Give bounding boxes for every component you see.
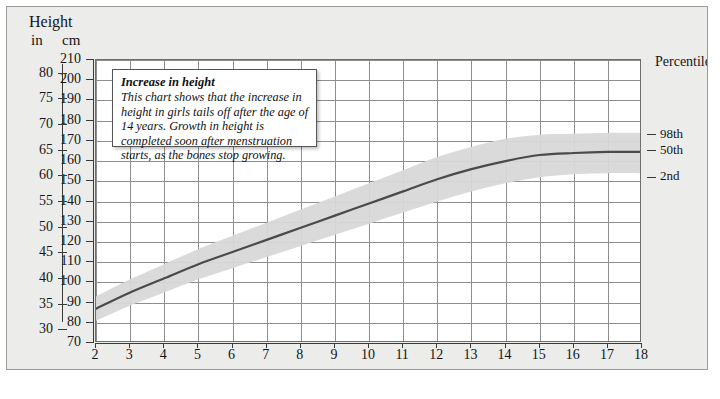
x-tick-label: 16 (566, 347, 580, 363)
in-tick-mark (58, 304, 67, 305)
in-tick-label: 65 (25, 142, 53, 158)
percentile-tick-mark (647, 134, 656, 135)
x-tick-mark (129, 343, 130, 348)
x-tick-mark (470, 343, 471, 348)
callout-box: Increase in height This chart shows that… (112, 69, 317, 147)
cm-tick-mark (86, 59, 93, 60)
in-tick-mark (58, 98, 67, 99)
x-tick-label: 11 (395, 347, 408, 363)
in-tick-label: 55 (25, 193, 53, 209)
x-tick-label: 2 (92, 347, 99, 363)
in-tick-mark (58, 150, 67, 151)
cm-tick-mark (86, 140, 93, 141)
x-tick-mark (402, 343, 403, 348)
cm-tick-mark (86, 99, 93, 100)
x-tick-label: 13 (463, 347, 477, 363)
x-tick-mark (641, 343, 642, 348)
x-tick-label: 4 (160, 347, 167, 363)
in-tick-label: 30 (25, 321, 53, 337)
in-tick-mark (58, 278, 67, 279)
in-tick-label: 40 (25, 270, 53, 286)
percentile-marker: 98th (647, 126, 683, 142)
x-tick-label: 17 (600, 347, 614, 363)
x-tick-label: 14 (498, 347, 512, 363)
in-tick-mark (58, 124, 67, 125)
in-tick-label: 50 (25, 219, 53, 235)
percentile-label: 98th (660, 126, 683, 141)
x-tick-mark (95, 343, 96, 348)
in-tick-label: 75 (25, 90, 53, 106)
cm-tick-mark (86, 180, 93, 181)
cm-tick-mark (86, 322, 93, 323)
in-tick-mark (58, 227, 67, 228)
percentile-label: 50th (660, 142, 683, 157)
percentile-tick-mark (647, 150, 656, 151)
in-tick-label: 80 (25, 65, 53, 81)
cm-tick-mark (86, 201, 93, 202)
growth-chart-panel: Height in cm Percentile Age (years) 2102… (6, 6, 708, 370)
in-tick-label: 70 (25, 116, 53, 132)
in-tick-mark (58, 73, 67, 74)
in-tick-mark (58, 175, 67, 176)
cm-tick-mark (86, 79, 93, 80)
x-tick-mark (607, 343, 608, 348)
in-tick-label: 45 (25, 244, 53, 260)
x-tick-mark (368, 343, 369, 348)
x-tick-label: 10 (361, 347, 375, 363)
percentile-tick-mark (647, 177, 656, 178)
x-tick-label: 7 (262, 347, 269, 363)
x-tick-label: 18 (634, 347, 648, 363)
x-tick-mark (197, 343, 198, 348)
x-tick-mark (573, 343, 574, 348)
in-tick-mark (58, 252, 67, 253)
cm-tick-mark (86, 241, 93, 242)
centimeters-unit-label: cm (62, 32, 80, 49)
callout-title: Increase in height (121, 75, 309, 89)
height-axis-title: Height (29, 13, 73, 31)
x-tick-mark (266, 343, 267, 348)
percentile-label: 2nd (660, 168, 680, 183)
inches-unit-label: in (31, 32, 43, 49)
in-tick-mark (58, 329, 67, 330)
percentile-marker: 2nd (647, 168, 680, 184)
x-axis-title: Age (years) (95, 367, 156, 370)
cm-tick-mark (86, 302, 93, 303)
cm-tick-mark (86, 342, 93, 343)
x-tick-label: 12 (429, 347, 443, 363)
x-tick-label: 6 (228, 347, 235, 363)
x-tick-mark (436, 343, 437, 348)
cm-tick-mark (86, 261, 93, 262)
cm-tick-mark (86, 221, 93, 222)
in-tick-label: 35 (25, 296, 53, 312)
percentile-marker: 50th (647, 142, 683, 158)
x-tick-mark (163, 343, 164, 348)
cm-tick-mark (86, 120, 93, 121)
x-tick-label: 8 (296, 347, 303, 363)
x-tick-mark (232, 343, 233, 348)
callout-body: This chart shows that the increase in he… (121, 90, 309, 163)
cm-tick-mark (86, 160, 93, 161)
in-tick-label: 60 (25, 167, 53, 183)
x-tick-label: 9 (330, 347, 337, 363)
cm-tick-mark (86, 281, 93, 282)
percentile-legend-title: Percentile (655, 54, 708, 70)
x-tick-mark (539, 343, 540, 348)
x-tick-mark (505, 343, 506, 348)
x-tick-label: 5 (194, 347, 201, 363)
in-tick-mark (58, 201, 67, 202)
x-tick-label: 3 (126, 347, 133, 363)
x-tick-label: 15 (532, 347, 546, 363)
cm-axis-line (93, 59, 94, 343)
x-tick-mark (334, 343, 335, 348)
x-tick-mark (300, 343, 301, 348)
